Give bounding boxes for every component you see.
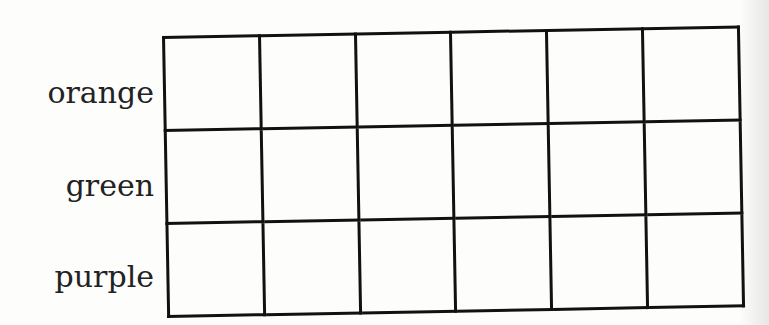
- grid-cell[interactable]: [261, 127, 359, 222]
- grid-row-purple: [167, 213, 744, 317]
- grid-cell[interactable]: [263, 220, 361, 315]
- empty-grid-table: [162, 25, 745, 318]
- row-label-green: green: [66, 171, 154, 201]
- grid-cell[interactable]: [165, 129, 263, 224]
- grid-cell[interactable]: [259, 34, 357, 129]
- grid-cell[interactable]: [550, 215, 648, 310]
- grid-cell[interactable]: [167, 222, 265, 317]
- grid-cell[interactable]: [357, 125, 455, 220]
- grid-container: [162, 25, 747, 316]
- grid-cell[interactable]: [547, 29, 645, 124]
- grid-cell[interactable]: [451, 30, 549, 125]
- grid-cell[interactable]: [359, 218, 457, 313]
- grid-cell[interactable]: [454, 216, 552, 311]
- row-labels: orange green purple: [0, 0, 160, 325]
- grid-cell[interactable]: [643, 27, 741, 122]
- row-label-orange: orange: [47, 78, 154, 108]
- row-label-purple: purple: [55, 262, 154, 292]
- grid-cell[interactable]: [355, 32, 453, 127]
- grid-row-green: [165, 120, 742, 224]
- grid-cell[interactable]: [453, 123, 551, 218]
- grid-cell[interactable]: [548, 122, 646, 217]
- grid-cell[interactable]: [644, 120, 742, 215]
- grid-cell[interactable]: [164, 36, 262, 131]
- grid-row-orange: [164, 27, 741, 131]
- grid-cell[interactable]: [646, 213, 744, 308]
